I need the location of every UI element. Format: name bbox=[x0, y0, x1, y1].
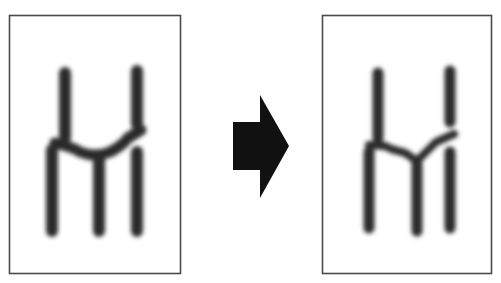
panel-after-frame bbox=[323, 16, 492, 274]
panel-after bbox=[323, 16, 492, 274]
arrow-right-icon bbox=[233, 95, 289, 198]
diagram-svg bbox=[0, 0, 501, 283]
diagram-canvas: Before After transforms to bbox=[0, 0, 501, 283]
panel-before bbox=[10, 16, 181, 274]
